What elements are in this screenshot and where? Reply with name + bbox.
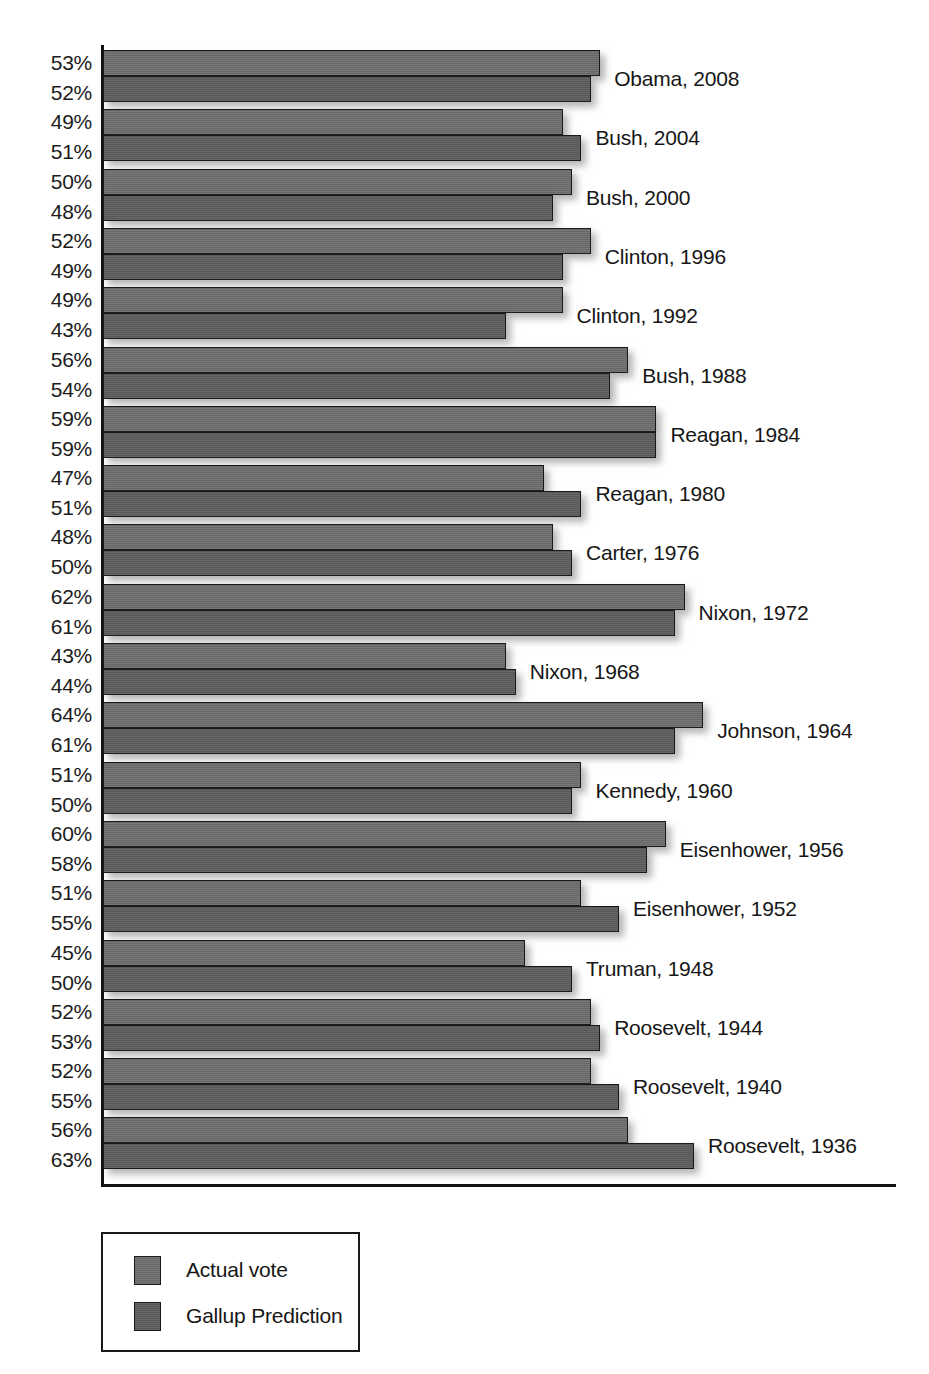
bar-gallup-prediction — [103, 195, 553, 221]
value-label-actual: 52% — [0, 997, 92, 1027]
value-label-gallup: 59% — [0, 434, 92, 464]
value-label-pair: 53%52% — [0, 48, 92, 108]
bar-gallup-prediction — [103, 610, 675, 636]
bar-group: 43%44%Nixon, 1968 — [0, 641, 929, 704]
bar-gallup-prediction — [103, 906, 619, 932]
value-label-actual: 60% — [0, 819, 92, 849]
bar-actual-vote — [103, 999, 591, 1025]
category-label: Reagan, 1980 — [595, 479, 725, 509]
bar-actual-vote — [103, 1117, 628, 1143]
bar-actual-vote — [103, 406, 656, 432]
bar-group: 56%54%Bush, 1988 — [0, 345, 929, 408]
value-label-gallup: 53% — [0, 1027, 92, 1057]
legend-label-gallup-prediction: Gallup Prediction — [186, 1304, 343, 1328]
category-label: Eisenhower, 1952 — [633, 894, 797, 924]
bar-group: 51%50%Kennedy, 1960 — [0, 760, 929, 823]
category-label: Bush, 2000 — [586, 183, 690, 213]
value-label-actual: 45% — [0, 938, 92, 968]
bar-gallup-prediction — [103, 313, 506, 339]
bar-group: 53%52%Obama, 2008 — [0, 48, 929, 111]
value-label-actual: 51% — [0, 878, 92, 908]
category-label: Bush, 2004 — [595, 123, 699, 153]
bar-actual-vote — [103, 169, 572, 195]
value-label-actual: 48% — [0, 522, 92, 552]
bar-group: 60%58%Eisenhower, 1956 — [0, 819, 929, 882]
value-label-actual: 49% — [0, 107, 92, 137]
value-label-pair: 62%61% — [0, 582, 92, 642]
value-label-pair: 56%63% — [0, 1115, 92, 1175]
bar-group: 62%61%Nixon, 1972 — [0, 582, 929, 645]
legend-item-gallup-prediction: Gallup Prediction — [134, 1299, 343, 1333]
category-label: Carter, 1976 — [586, 538, 699, 568]
legend-item-actual-vote: Actual vote — [134, 1253, 288, 1287]
bar-gallup-prediction — [103, 1025, 600, 1051]
category-label: Roosevelt, 1940 — [633, 1072, 782, 1102]
bar-group: 49%43%Clinton, 1992 — [0, 285, 929, 348]
value-label-actual: 56% — [0, 345, 92, 375]
value-label-pair: 47%51% — [0, 463, 92, 523]
bar-actual-vote — [103, 762, 581, 788]
category-label: Obama, 2008 — [614, 64, 739, 94]
bar-group: 59%59%Reagan, 1984 — [0, 404, 929, 467]
value-label-pair: 52%49% — [0, 226, 92, 286]
category-label: Clinton, 1992 — [577, 301, 698, 331]
bar-actual-vote — [103, 584, 685, 610]
bar-actual-vote — [103, 287, 563, 313]
category-label: Nixon, 1972 — [699, 598, 809, 628]
chart-legend: Actual vote Gallup Prediction — [101, 1232, 360, 1352]
value-label-pair: 51%55% — [0, 878, 92, 938]
bar-actual-vote — [103, 465, 544, 491]
bar-group: 56%63%Roosevelt, 1936 — [0, 1115, 929, 1178]
plot-area: 53%52%Obama, 200849%51%Bush, 200450%48%B… — [0, 0, 929, 1190]
value-label-pair: 60%58% — [0, 819, 92, 879]
x-axis-line — [101, 1184, 896, 1187]
value-label-gallup: 55% — [0, 1086, 92, 1116]
bar-actual-vote — [103, 702, 703, 728]
value-label-pair: 49%51% — [0, 107, 92, 167]
legend-label-actual-vote: Actual vote — [186, 1258, 288, 1282]
value-label-gallup: 51% — [0, 493, 92, 523]
bar-gallup-prediction — [103, 1143, 694, 1169]
bar-actual-vote — [103, 347, 628, 373]
value-label-gallup: 50% — [0, 968, 92, 998]
value-label-actual: 51% — [0, 760, 92, 790]
value-label-pair: 50%48% — [0, 167, 92, 227]
value-label-gallup: 49% — [0, 256, 92, 286]
value-label-gallup: 44% — [0, 671, 92, 701]
bar-gallup-prediction — [103, 788, 572, 814]
category-label: Kennedy, 1960 — [595, 776, 732, 806]
value-label-gallup: 52% — [0, 78, 92, 108]
bar-actual-vote — [103, 228, 591, 254]
bar-actual-vote — [103, 880, 581, 906]
bar-gallup-prediction — [103, 728, 675, 754]
value-label-actual: 43% — [0, 641, 92, 671]
value-label-pair: 45%50% — [0, 938, 92, 998]
bar-group: 52%53%Roosevelt, 1944 — [0, 997, 929, 1060]
value-label-gallup: 50% — [0, 790, 92, 820]
value-label-gallup: 48% — [0, 197, 92, 227]
value-label-gallup: 61% — [0, 730, 92, 760]
value-label-gallup: 43% — [0, 315, 92, 345]
bar-group: 51%55%Eisenhower, 1952 — [0, 878, 929, 941]
bar-group: 48%50%Carter, 1976 — [0, 522, 929, 585]
bar-gallup-prediction — [103, 76, 591, 102]
value-label-gallup: 61% — [0, 612, 92, 642]
value-label-pair: 43%44% — [0, 641, 92, 701]
value-label-gallup: 50% — [0, 552, 92, 582]
value-label-actual: 62% — [0, 582, 92, 612]
value-label-pair: 52%55% — [0, 1056, 92, 1116]
bar-actual-vote — [103, 109, 563, 135]
bar-gallup-prediction — [103, 135, 581, 161]
bar-gallup-prediction — [103, 432, 656, 458]
bar-actual-vote — [103, 50, 600, 76]
bar-group: 50%48%Bush, 2000 — [0, 167, 929, 230]
bar-group: 64%61%Johnson, 1964 — [0, 700, 929, 763]
value-label-pair: 49%43% — [0, 285, 92, 345]
value-label-actual: 52% — [0, 226, 92, 256]
value-label-pair: 56%54% — [0, 345, 92, 405]
bar-group: 49%51%Bush, 2004 — [0, 107, 929, 170]
bar-gallup-prediction — [103, 1084, 619, 1110]
value-label-pair: 48%50% — [0, 522, 92, 582]
value-label-pair: 51%50% — [0, 760, 92, 820]
value-label-actual: 59% — [0, 404, 92, 434]
